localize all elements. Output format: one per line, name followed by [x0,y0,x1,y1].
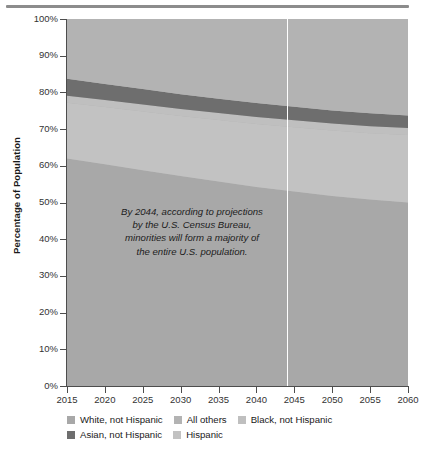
x-axis-tick [219,387,220,393]
y-axis-tick-label: 30% [6,269,58,280]
legend-swatch [173,431,181,439]
legend-swatch [174,416,182,424]
legend-swatch [238,416,246,424]
x-axis-tick-label: 2025 [123,394,163,405]
chart-annotation: By 2044, according to projectionsby the … [86,205,298,258]
legend-item-white-not-hispanic[interactable]: White, not Hispanic [67,414,163,425]
y-axis-tick-label: 90% [6,49,58,60]
x-axis-line [66,386,409,387]
annotation-line: By 2044, according to projections [86,205,298,218]
x-axis-tick-label: 2050 [312,394,352,405]
x-axis-tick [67,387,68,393]
legend-row: Asian, not HispanicHispanic [67,429,415,440]
y-axis-tick [60,386,66,387]
year-2044-marker-line [287,19,289,386]
x-axis-tick [105,387,106,393]
legend-label: Black, not Hispanic [251,414,333,425]
y-axis-tick [60,166,66,167]
y-axis-tick [60,92,66,93]
y-axis-tick [60,129,66,130]
y-axis-tick [60,19,66,20]
x-axis-tick [143,387,144,393]
legend-item-all-others[interactable]: All others [174,414,227,425]
x-axis-tick-label: 2020 [85,394,125,405]
legend-item-black-not-hispanic[interactable]: Black, not Hispanic [238,414,333,425]
legend-label: White, not Hispanic [80,414,163,425]
y-axis-tick [60,239,66,240]
x-axis-tick [256,387,257,393]
y-axis-tick-label: 0% [6,380,58,391]
x-axis-tick-label: 2060 [388,394,423,405]
legend-item-hispanic[interactable]: Hispanic [173,429,223,440]
x-axis-tick [294,387,295,393]
legend-item-asian-not-hispanic[interactable]: Asian, not Hispanic [67,429,162,440]
y-axis-tick [60,276,66,277]
plot-area [67,19,408,386]
y-axis-tick-label: 70% [6,123,58,134]
legend-label: Hispanic [186,429,223,440]
y-axis-tick [60,349,66,350]
x-axis-tick-label: 2035 [199,394,239,405]
legend-label: Asian, not Hispanic [80,429,162,440]
y-axis-tick-label: 40% [6,233,58,244]
y-axis-tick [60,56,66,57]
chart-legend: White, not HispanicAll othersBlack, not … [67,414,415,444]
annotation-line: minorities will form a majority of [86,231,298,244]
annotation-line: by the U.S. Census Bureau, [86,218,298,231]
y-axis-tick-labels: 0%10%20%30%40%50%60%70%80%90%100% [0,0,58,457]
y-axis-tick-label: 50% [6,196,58,207]
x-axis-tick-label: 2030 [161,394,201,405]
y-axis-tick [60,203,66,204]
x-axis-tick [181,387,182,393]
legend-swatch [67,416,75,424]
x-axis-tick-label: 2040 [236,394,276,405]
y-axis-tick-label: 60% [6,159,58,170]
y-axis-tick-label: 80% [6,86,58,97]
y-axis-line [66,19,67,387]
annotation-line: the entire U.S. population. [86,245,298,258]
x-axis-tick [370,387,371,393]
x-axis-tick-label: 2015 [47,394,87,405]
x-axis-tick [408,387,409,393]
y-axis-tick-label: 10% [6,343,58,354]
y-axis-tick [60,313,66,314]
x-axis-tick-label: 2055 [350,394,390,405]
y-axis-tick-label: 20% [6,306,58,317]
legend-row: White, not HispanicAll othersBlack, not … [67,414,415,425]
legend-swatch [67,431,75,439]
x-axis-tick [332,387,333,393]
x-axis-tick-label: 2045 [274,394,314,405]
legend-label: All others [187,414,227,425]
y-axis-tick-label: 100% [6,13,58,24]
